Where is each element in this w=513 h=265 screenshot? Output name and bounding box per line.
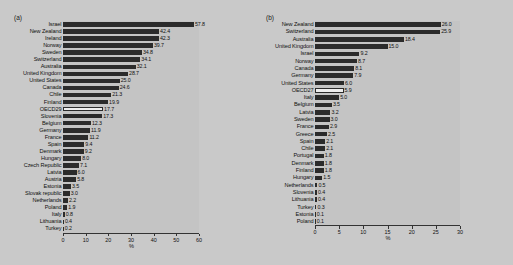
bar	[315, 154, 324, 159]
bar-cell: 18.4	[315, 36, 415, 43]
bar-row: Greece2.5	[256, 130, 512, 137]
bar-category-label: Canada	[266, 65, 316, 72]
bar	[315, 205, 316, 210]
bar-cell: 25.9	[315, 28, 451, 35]
bar	[63, 191, 70, 196]
bar-category-label: Belgium	[14, 120, 64, 127]
bar	[63, 79, 120, 84]
bar-value-label: 6.0	[345, 80, 352, 87]
bar-row: Czech Republic7.1	[0, 162, 256, 169]
bar-category-label: Chile	[266, 145, 316, 152]
bar-row: United Kingdom28.7	[0, 70, 256, 77]
bar-category-label: Canada	[14, 84, 64, 91]
bar-value-label: 7.9	[354, 72, 361, 79]
bar	[315, 59, 357, 64]
bar-value-label: 21.3	[112, 91, 122, 98]
bar-category-label: Denmark	[14, 148, 64, 155]
bar-value-label: 2.9	[330, 123, 337, 130]
bar-category-label: Slovenia	[14, 113, 64, 120]
bar-value-label: 42.3	[160, 35, 170, 42]
bar	[315, 212, 316, 217]
bar-row: Turkey0.3	[256, 203, 512, 210]
bar-value-label: 26.0	[442, 21, 452, 28]
bar-value-label: 12.3	[92, 120, 102, 127]
bar	[63, 170, 77, 175]
bar-category-label: Greece	[266, 131, 316, 138]
bar	[315, 168, 324, 173]
bar-cell: 1.9	[63, 204, 75, 211]
bar	[315, 103, 332, 108]
x-axis-tick-label: 10	[360, 229, 366, 235]
x-axis-tick-label: 0	[314, 229, 317, 235]
bar-category-label: Netherlands	[14, 197, 64, 204]
x-axis-tick-label: 40	[151, 237, 157, 243]
bar-row: Slovak republic3.0	[0, 190, 256, 197]
bar-cell: 8.1	[315, 65, 362, 72]
bar	[63, 135, 88, 140]
bar	[63, 128, 90, 133]
bar-category-label: Lithuania	[266, 196, 316, 203]
bar-category-label: Spain	[14, 141, 64, 148]
bar-category-label: Estonia	[14, 183, 64, 190]
bar-row: Spain2.1	[256, 138, 512, 145]
bar-cell: 7.9	[315, 72, 361, 79]
bar-category-label: Poland	[266, 218, 316, 225]
chart-panel-a: (a) Israel57.8New Zealand42.4Ireland42.3…	[0, 0, 256, 265]
bar-row: Israel9.2	[256, 50, 512, 57]
x-axis-tick-label: 60	[196, 237, 202, 243]
bar-cell: 6.0	[315, 79, 352, 86]
bar-row: Finland1.8	[256, 167, 512, 174]
bar-category-label: Israel	[14, 21, 64, 28]
bar	[315, 73, 353, 78]
bar-cell: 2.1	[315, 138, 333, 145]
bar-value-label: 0.5	[318, 182, 325, 189]
bar-row: Australia18.4	[256, 36, 512, 43]
bar-category-label: Switzerland	[266, 28, 316, 35]
bar	[63, 121, 91, 126]
bar-cell: 24.6	[63, 84, 130, 91]
bar-row: Poland1.9	[0, 204, 256, 211]
bar	[63, 57, 140, 62]
bar-cell: 0.2	[63, 225, 72, 232]
bar-value-label: 0.4	[65, 218, 72, 225]
bar-category-label: Latvia	[266, 109, 316, 116]
bar-category-label: Israel	[266, 50, 316, 57]
bar-value-label: 2.5	[328, 131, 335, 138]
bar-cell: 0.4	[315, 196, 325, 203]
bar	[315, 125, 329, 130]
bar-cell: 17.7	[63, 106, 114, 113]
bar-category-label: Hungary	[266, 174, 316, 181]
bar-category-label: Germany	[14, 127, 64, 134]
bar-category-label: Slovak republic	[14, 190, 64, 197]
bar-row: Sweden34.8	[0, 49, 256, 56]
bar-row: Australia32.1	[0, 63, 256, 70]
bar-cell: 11.2	[63, 134, 99, 141]
bar-cell: 3.2	[315, 109, 339, 116]
bar-category-label: Norway	[266, 58, 316, 65]
bar	[315, 44, 388, 49]
bar-cell: 0.8	[63, 211, 73, 218]
bar-value-label: 1.9	[68, 204, 75, 211]
x-axis-tick-label: 0	[62, 237, 65, 243]
bar	[63, 29, 159, 34]
bar	[63, 22, 194, 27]
bar-row: Ireland42.3	[0, 35, 256, 42]
bar-value-label: 34.8	[143, 49, 153, 56]
bar-cell: 0.4	[63, 218, 72, 225]
bar-row: Latvia6.0	[0, 169, 256, 176]
bar	[315, 66, 354, 71]
bar	[63, 100, 108, 105]
bar-category-label: Turkey	[14, 225, 64, 232]
bar	[63, 149, 84, 154]
bar-category-label: France	[14, 134, 64, 141]
bar-category-label: Denmark	[266, 160, 316, 167]
bar-cell: 8.0	[63, 155, 89, 162]
bar	[63, 220, 64, 225]
bar-row: Chile2.1	[256, 145, 512, 152]
bar-cell: 42.3	[63, 35, 170, 42]
bar-value-label: 3.5	[333, 101, 340, 108]
figure-root: (a) Israel57.8New Zealand42.4Ireland42.3…	[0, 0, 513, 265]
bar-value-label: 25.0	[121, 77, 131, 84]
bar-row: Canada8.1	[256, 65, 512, 72]
bar-category-label: Finland	[14, 99, 64, 106]
